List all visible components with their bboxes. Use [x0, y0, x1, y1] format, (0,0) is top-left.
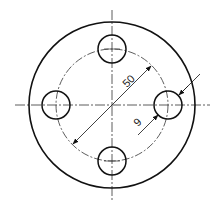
dim-9-label: 9 [131, 116, 144, 129]
dim-50-label: 50 [120, 72, 137, 89]
technical-drawing: 50 9 [0, 0, 217, 206]
dimension-hole: 9 [131, 74, 200, 135]
